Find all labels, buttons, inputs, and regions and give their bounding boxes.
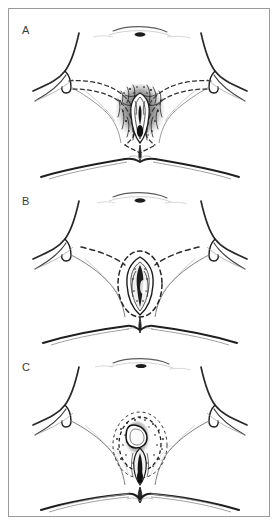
right-thigh-contour [201, 367, 247, 435]
umbilicus [95, 359, 191, 370]
right-thigh-contour [201, 33, 247, 101]
umbilicus [93, 27, 191, 38]
right-thigh-contour [201, 201, 247, 269]
perineum-and-anus-c [127, 487, 153, 503]
left-thigh-contour [33, 201, 79, 269]
figure-border-frame: A [8, 8, 270, 517]
panel-c-illustration [9, 349, 269, 516]
panel-b-illustration [9, 183, 269, 349]
panel-a-illustration [9, 9, 269, 183]
left-thigh-contour [33, 367, 79, 435]
figure-panel-b: B [9, 183, 269, 349]
vulva-introitus-b [127, 257, 153, 315]
umbilicus [97, 193, 187, 204]
focal-lesion-c [124, 421, 150, 485]
figure-panel-c: C [9, 349, 269, 516]
buttock-crease-a [41, 159, 239, 179]
figure-root: A [0, 0, 279, 526]
figure-panel-a: A [9, 9, 269, 183]
left-thigh-contour [33, 33, 79, 101]
